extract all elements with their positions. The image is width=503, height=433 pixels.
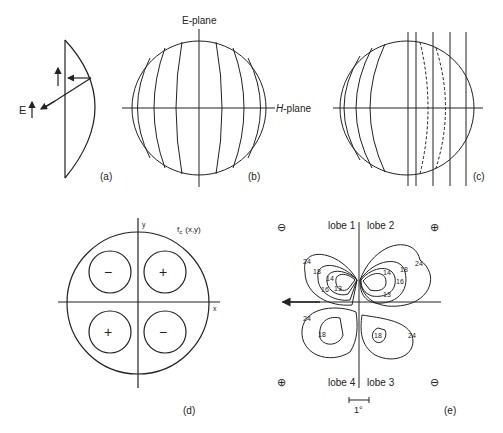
svg-text:13: 13 <box>383 291 391 298</box>
scale-bar-label: 1° <box>354 405 363 415</box>
panel-c <box>333 32 483 186</box>
panel-label-b: (b) <box>248 171 260 182</box>
x-axis-label: x <box>213 305 217 312</box>
e-plane-label: E-plane <box>182 15 217 26</box>
panel-label-a: (a) <box>100 171 112 182</box>
panel-label-d: (d) <box>183 405 195 416</box>
sign-upper-left: − <box>104 264 112 280</box>
panel-d <box>58 218 220 388</box>
svg-text:24: 24 <box>408 332 416 339</box>
corner-sign-lower-right: ⊖ <box>430 376 439 388</box>
svg-text:18: 18 <box>400 266 408 273</box>
function-label: fc(x,y) <box>177 225 201 235</box>
svg-text:18: 18 <box>313 268 321 275</box>
y-axis-label: y <box>142 221 146 229</box>
svg-text:24: 24 <box>303 315 311 322</box>
lobe-1-label: lobe 1 <box>328 220 356 231</box>
corner-sign-lower-left: ⊕ <box>277 376 286 388</box>
reflected-ray-arrow <box>41 101 55 109</box>
svg-text:18: 18 <box>374 332 382 339</box>
svg-text:24: 24 <box>415 260 423 267</box>
svg-text:14: 14 <box>326 275 334 282</box>
panel-a <box>32 40 95 178</box>
panel-e <box>282 222 441 403</box>
e-field-label: E <box>19 104 26 116</box>
svg-text:14: 14 <box>383 269 391 276</box>
corner-sign-upper-right: ⊕ <box>430 221 439 233</box>
paraboloid-reflector <box>65 40 95 178</box>
figure-canvas: E (a) E-plane H-plane (b) (c) <box>0 0 503 433</box>
svg-text:16: 16 <box>321 286 329 293</box>
sign-lower-right: − <box>159 324 167 340</box>
panel-label-c: (c) <box>473 171 485 182</box>
panel-b <box>122 29 275 187</box>
h-plane-label: H-plane <box>276 103 311 114</box>
svg-text:13: 13 <box>334 285 342 292</box>
lobe-2-label: lobe 2 <box>367 220 395 231</box>
lobe-4-label: lobe 4 <box>328 377 356 388</box>
sign-lower-left: + <box>104 324 112 340</box>
svg-text:16: 16 <box>396 278 404 285</box>
lobe-3-label: lobe 3 <box>367 377 395 388</box>
sign-upper-right: + <box>159 264 167 280</box>
svg-text:18: 18 <box>318 331 326 338</box>
panel-label-e: (e) <box>444 405 456 416</box>
svg-text:24: 24 <box>303 258 311 265</box>
corner-sign-upper-left: ⊖ <box>277 221 286 233</box>
